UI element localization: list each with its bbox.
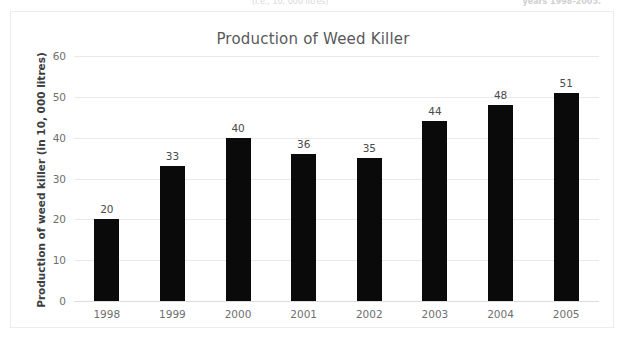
clipped-page-text: (i.e., 10, 000 litres) years 1998-2005. [0,0,625,9]
bar-value-label-2003: 44 [410,105,460,117]
bar-value-label-2001: 36 [279,138,329,150]
gridline-30 [74,179,599,180]
plot-area: 0102030405060201998331999402000362001352… [74,56,599,301]
bar-value-label-1998: 20 [82,203,132,215]
bar-value-label-2004: 48 [476,89,526,101]
gridline-40 [74,138,599,139]
clipped-text-right: years 1998-2005. [523,0,601,6]
bar-value-label-2005: 51 [541,77,591,89]
bar-2001 [291,154,316,301]
bar-2003 [422,121,447,301]
bar-2004 [488,105,513,301]
bar-2000 [226,138,251,301]
clipped-text-left: (i.e., 10, 000 litres) [252,0,328,6]
x-axis-tick-2004: 2004 [471,308,531,320]
x-axis-tick-2001: 2001 [274,308,334,320]
x-axis-tick-2003: 2003 [405,308,465,320]
chart-title: Production of Weed Killer [11,30,615,48]
x-axis-tick-2002: 2002 [339,308,399,320]
gridline-20 [74,219,599,220]
x-axis-tick-2000: 2000 [208,308,268,320]
x-axis-tick-1998: 1998 [77,308,137,320]
y-axis-title: Production of weed killer (in 10, 000 li… [35,50,51,310]
y-axis-tick-10: 10 [53,254,66,266]
y-axis-tick-0: 0 [59,295,66,307]
y-axis-tick-50: 50 [53,91,66,103]
bar-value-label-2002: 35 [344,142,394,154]
y-axis-tick-30: 30 [53,173,66,185]
gridline-10 [74,260,599,261]
y-axis-tick-40: 40 [53,132,66,144]
gridline-60 [74,56,599,57]
bar-1999 [160,166,185,301]
bar-value-label-1999: 33 [147,150,197,162]
y-axis-tick-60: 60 [53,50,66,62]
bar-1998 [94,219,119,301]
gridline-0 [74,301,599,302]
x-axis-tick-1999: 1999 [142,308,202,320]
x-axis-tick-2005: 2005 [536,308,596,320]
chart-container: Production of Weed Killer Production of … [10,11,614,328]
bar-2002 [357,158,382,301]
bar-value-label-2000: 40 [213,122,263,134]
bar-2005 [554,93,579,301]
y-axis-tick-20: 20 [53,213,66,225]
